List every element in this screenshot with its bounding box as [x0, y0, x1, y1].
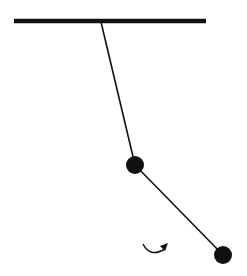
double-pendulum-diagram: [0, 0, 247, 276]
upper-bob: [126, 156, 144, 174]
upper-rod: [101, 22, 135, 165]
lower-rod: [135, 165, 223, 255]
curved-arrow-icon: [143, 243, 168, 253]
lower-bob: [214, 246, 232, 264]
